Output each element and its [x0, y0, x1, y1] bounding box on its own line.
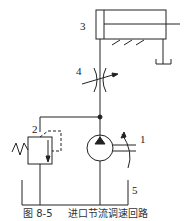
figure-number: 图 8-5	[23, 208, 53, 219]
relief-valve	[12, 131, 61, 205]
hydraulic-circuit-diagram: 3 4 2 1 5 图 8-5 进口节流调速回路	[0, 0, 184, 221]
hydraulic-pump	[87, 132, 136, 205]
oil-tank	[22, 180, 128, 205]
label-2: 2	[32, 123, 38, 135]
figure-caption: 进口节流调速回路	[68, 207, 148, 219]
label-4: 4	[76, 65, 82, 77]
label-5: 5	[132, 184, 138, 196]
hydraulic-cylinder	[96, 10, 180, 64]
label-1: 1	[140, 133, 146, 145]
label-3: 3	[80, 20, 86, 32]
